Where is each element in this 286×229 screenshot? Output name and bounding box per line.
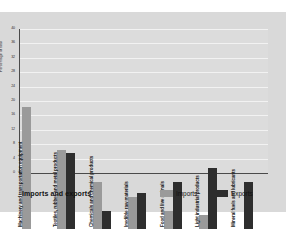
legend-swatch-exports <box>215 190 228 197</box>
bar-imports <box>164 211 173 223</box>
chart-footer: Imports and exports Imports Exports <box>0 179 286 212</box>
y-axis-tick-label: 40 <box>3 27 15 31</box>
bar-exports <box>102 211 111 223</box>
y-axis-tick-label: 8 <box>3 143 15 147</box>
y-axis-tick-label: 4 <box>3 157 15 161</box>
chart-figure: 0481216202428323640Percentage of total M… <box>0 12 286 212</box>
y-axis-title: Percentage of total <box>0 41 3 72</box>
y-axis-tick-label: 36 <box>3 42 15 46</box>
y-axis-tick-label: 28 <box>3 71 15 75</box>
y-axis-tick-label: 0 <box>3 171 15 175</box>
y-axis-tick-label: 12 <box>3 128 15 132</box>
legend-label-imports: Imports <box>176 190 197 197</box>
chart-caption: Imports and exports <box>22 190 91 197</box>
y-axis-tick-label: 32 <box>3 56 15 60</box>
y-axis-tick-label: 16 <box>3 114 15 118</box>
bar-imports <box>199 215 208 223</box>
legend-swatch-imports <box>160 190 173 197</box>
y-axis-tick-label: 24 <box>3 85 15 89</box>
legend-label-exports: Exports <box>231 190 253 197</box>
y-axis-tick-label: 20 <box>3 99 15 103</box>
